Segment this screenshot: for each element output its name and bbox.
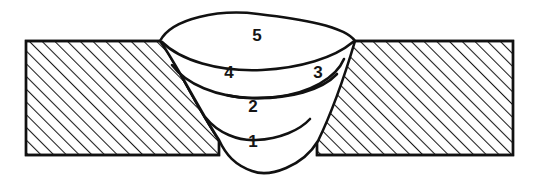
- pass-label-4: 4: [224, 63, 234, 82]
- pass-label-1: 1: [248, 132, 257, 151]
- pass-label-3: 3: [313, 63, 322, 82]
- pass-label-2: 2: [248, 97, 257, 116]
- weld-diagram-svg: 5 4 3 2 1: [0, 0, 539, 176]
- pass-label-5: 5: [252, 26, 261, 45]
- weld-cross-section-figure: 5 4 3 2 1: [0, 0, 539, 176]
